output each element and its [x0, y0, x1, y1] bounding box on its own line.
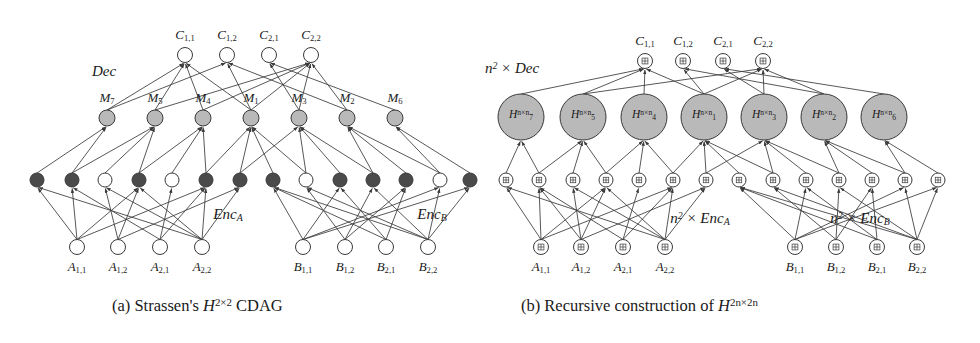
input-node-label-A1,2: A1,2 [109, 259, 128, 275]
edge [540, 188, 623, 240]
edge [252, 127, 273, 173]
edge [506, 141, 520, 173]
edge [203, 127, 206, 173]
edge [704, 141, 706, 173]
input-node-A1,1 [70, 240, 85, 255]
edge [348, 127, 373, 173]
edge [583, 69, 762, 94]
middle-node-label-H3: Hn×n3 [752, 108, 776, 122]
edge [644, 70, 645, 94]
edge [303, 188, 339, 239]
input-node-label-A2,1: A2,1 [614, 259, 633, 275]
middle-node-M6 [387, 110, 403, 126]
edge [160, 188, 205, 239]
edge [825, 141, 839, 173]
middle-node-label-H5: Hn×n5 [571, 108, 595, 122]
middle-node-label-H4: Hn×n4 [632, 108, 656, 122]
edge [539, 188, 541, 239]
group-label-n2-enc-b: n2 × EncB [830, 210, 889, 227]
input-node-label-A1,1: A1,1 [68, 259, 87, 275]
input-node-label-B2,2: B2,2 [908, 259, 927, 275]
input-node-A2,2 [195, 240, 210, 255]
edge [348, 127, 406, 173]
output-node-label-C2,1: C2,1 [259, 27, 278, 43]
input-node-label-B1,2: B1,2 [336, 259, 355, 275]
output-node-label-C1,2: C1,2 [673, 33, 692, 49]
edge [72, 127, 106, 173]
output-node-C1,1 [178, 48, 193, 63]
encoder-node [299, 173, 313, 187]
edge [541, 188, 605, 240]
edge [765, 141, 839, 173]
edge [341, 188, 386, 239]
edge [581, 188, 605, 239]
input-node-label-B2,2: B2,2 [419, 259, 438, 275]
edge [270, 63, 395, 110]
edge [507, 188, 541, 239]
edge [645, 141, 673, 173]
edge [905, 188, 917, 239]
edge [673, 141, 703, 173]
input-node-A2,1 [153, 240, 168, 255]
edge [539, 141, 582, 173]
input-node-label-A1,1: A1,1 [532, 259, 551, 275]
middle-node-M7 [99, 110, 115, 126]
output-node-label-C2,2: C2,2 [301, 27, 320, 43]
edge [107, 63, 184, 110]
encoder-node [463, 173, 477, 187]
edge [72, 188, 77, 239]
edge [206, 127, 250, 173]
middle-node-label-H7: Hn×n7 [509, 108, 533, 122]
group-label-enc-a: EncA [213, 206, 242, 223]
group-label-enc-b: EncB [417, 206, 446, 223]
middle-node-label-M7: M7 [99, 90, 114, 106]
edge [917, 188, 937, 239]
middle-node-label-M2: M2 [339, 90, 354, 106]
edge [140, 188, 202, 240]
middle-node-label-H2: Hn×n2 [812, 108, 836, 122]
input-node-B2,1 [379, 240, 394, 255]
input-node-label-B2,1: B2,1 [868, 259, 887, 275]
edge [252, 127, 306, 173]
middle-node-M1 [243, 110, 259, 126]
edge [300, 127, 340, 173]
encoder-node [132, 173, 146, 187]
encoder-node [165, 173, 179, 187]
edge [274, 188, 386, 240]
middle-node-label-M4: M4 [195, 90, 210, 106]
output-node-label-C1,1: C1,1 [175, 27, 194, 43]
output-node-C2,2 [304, 48, 319, 63]
input-node-B2,2 [421, 240, 436, 255]
edge [202, 188, 206, 239]
encoder-node [366, 173, 380, 187]
input-node-B1,2 [338, 240, 353, 255]
edge [795, 188, 806, 239]
middle-node-label-H6: Hn×n6 [872, 108, 896, 122]
input-node-label-A1,2: A1,2 [572, 259, 591, 275]
edge [299, 127, 306, 173]
encoder-node [30, 173, 44, 187]
output-node-label-C2,2: C2,2 [753, 33, 772, 49]
edge [623, 188, 672, 239]
edge [684, 70, 704, 94]
middle-node-M5 [147, 110, 163, 126]
middle-node-label-M6: M6 [387, 90, 402, 106]
input-node-label-B1,1: B1,1 [786, 259, 805, 275]
caption-panel-b: (b) Recursive construction of H2n×2n [521, 296, 758, 316]
edge [521, 69, 644, 94]
input-node-label-A2,2: A2,2 [193, 259, 212, 275]
edge [763, 70, 764, 94]
edge [764, 69, 824, 94]
input-node-B1,1 [296, 240, 311, 255]
output-node-label-C1,1: C1,1 [635, 33, 654, 49]
edge [77, 188, 205, 240]
input-node-label-B1,1: B1,1 [294, 259, 313, 275]
cdag-diagram [0, 0, 980, 343]
middle-node-label-M3: M3 [291, 90, 306, 106]
encoder-node [65, 173, 79, 187]
edge [38, 188, 77, 239]
edge [37, 127, 106, 173]
edge [160, 188, 172, 239]
middle-node-M3 [291, 110, 307, 126]
input-node-A1,2 [111, 240, 126, 255]
